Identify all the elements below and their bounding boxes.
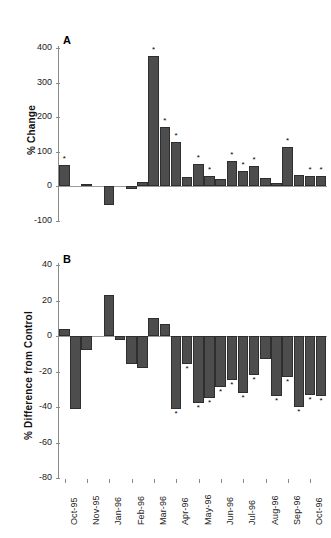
- significance-asterisk: *: [273, 398, 279, 404]
- bar: [294, 336, 305, 407]
- x-tick: [288, 479, 289, 483]
- bar: [271, 336, 282, 396]
- x-tick-label: Sep-96: [292, 495, 302, 525]
- bar: [204, 336, 215, 398]
- bar: [59, 329, 70, 336]
- x-tick-label: Oct-95: [69, 497, 79, 525]
- bar: [305, 176, 316, 186]
- bar: [282, 336, 293, 377]
- y-tick-label: -40: [22, 401, 52, 411]
- x-tick-label: Jun-96: [225, 497, 235, 525]
- x-tick: [132, 479, 133, 483]
- significance-asterisk: *: [240, 395, 246, 401]
- y-tick-label: 20: [22, 295, 52, 305]
- bar: [193, 164, 204, 186]
- panel-a: A % Change -1000100200300400 ***********…: [0, 0, 331, 240]
- y-tick-label: -100: [22, 215, 52, 225]
- y-tick-label: 100: [22, 146, 52, 156]
- y-tick-label: 300: [22, 77, 52, 87]
- bar: [137, 182, 148, 186]
- significance-asterisk: *: [61, 156, 67, 162]
- bar: [238, 336, 249, 393]
- bar: [227, 336, 238, 380]
- x-tick-label: Feb-96: [136, 496, 146, 525]
- significance-asterisk: *: [162, 118, 168, 124]
- x-tick-label: May-96: [203, 494, 213, 525]
- bar: [305, 336, 316, 395]
- x-tick-label: Apr-96: [180, 497, 190, 525]
- significance-asterisk: *: [184, 366, 190, 372]
- significance-asterisk: *: [296, 409, 302, 415]
- significance-asterisk: *: [318, 167, 324, 173]
- x-tick: [310, 479, 311, 483]
- bar: [215, 336, 226, 387]
- bar: [227, 161, 238, 186]
- bar: [204, 176, 215, 186]
- zero-baseline: [59, 186, 327, 187]
- bar: [81, 184, 92, 186]
- x-tick-label: Jan-96: [113, 497, 123, 525]
- x-tick: [109, 479, 110, 483]
- bar: [104, 186, 115, 205]
- panel-b: B % Difference from Control -80-60-40-20…: [0, 240, 331, 538]
- x-tick: [87, 479, 88, 483]
- y-tick-label: 0: [22, 180, 52, 190]
- significance-asterisk: *: [240, 162, 246, 168]
- significance-asterisk: *: [229, 152, 235, 158]
- significance-asterisk: *: [251, 157, 257, 163]
- bar: [282, 147, 293, 186]
- y-tick-label: -20: [22, 366, 52, 376]
- y-tick-label: -60: [22, 437, 52, 447]
- bar: [59, 165, 70, 186]
- significance-asterisk: *: [151, 47, 157, 53]
- bar: [260, 178, 271, 186]
- x-tick: [65, 479, 66, 483]
- significance-asterisk: *: [206, 400, 212, 406]
- significance-asterisk: *: [229, 382, 235, 388]
- x-tick-label: Jul-96: [247, 500, 257, 525]
- bar: [115, 336, 126, 340]
- x-tick-label: Oct-96: [314, 497, 324, 525]
- y-tick-label: 0: [22, 330, 52, 340]
- x-tick-label: Mar-96: [158, 496, 168, 525]
- bar: [182, 177, 193, 186]
- bar: [294, 175, 305, 186]
- y-tick-label: 400: [22, 42, 52, 52]
- x-tick: [176, 479, 177, 483]
- x-tick: [154, 479, 155, 483]
- significance-asterisk: *: [251, 377, 257, 383]
- bar: [215, 179, 226, 186]
- bar: [171, 336, 182, 409]
- y-tick-label: 40: [22, 259, 52, 269]
- significance-asterisk: *: [307, 167, 313, 173]
- bar: [160, 127, 171, 186]
- significance-asterisk: *: [195, 155, 201, 161]
- bar: [249, 166, 260, 186]
- bar: [182, 336, 193, 364]
- bar: [70, 336, 81, 409]
- bar: [193, 336, 204, 403]
- bar: [126, 186, 137, 189]
- bar: [260, 336, 271, 359]
- x-tick-label: Aug-96: [270, 495, 280, 525]
- significance-asterisk: *: [173, 133, 179, 139]
- bar: [171, 142, 182, 186]
- significance-asterisk: *: [206, 167, 212, 173]
- bar: [316, 176, 327, 186]
- bar: [81, 336, 92, 350]
- figure-root: A % Change -1000100200300400 ***********…: [0, 0, 331, 538]
- panel-a-plot-area: ************: [59, 40, 327, 230]
- bar: [271, 183, 282, 186]
- bar: [160, 324, 171, 336]
- bar: [238, 171, 249, 186]
- x-tick: [221, 479, 222, 483]
- panel-b-plot-area: *************: [59, 258, 327, 483]
- y-tick-label: -80: [22, 472, 52, 482]
- significance-asterisk: *: [173, 411, 179, 417]
- significance-asterisk: *: [218, 389, 224, 395]
- x-tick: [199, 479, 200, 483]
- x-tick: [266, 479, 267, 483]
- significance-asterisk: *: [285, 138, 291, 144]
- bar: [148, 56, 159, 186]
- bar: [148, 318, 159, 336]
